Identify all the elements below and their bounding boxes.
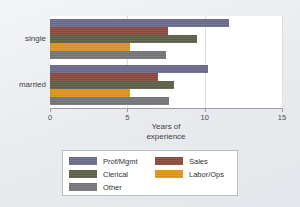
legend-swatch xyxy=(69,157,97,165)
legend-entry: Labor/Ops xyxy=(155,168,224,180)
x-axis-line xyxy=(50,108,282,109)
bar xyxy=(50,51,166,59)
legend-entry: Sales xyxy=(155,155,224,167)
chart-figure: singlemarried 051015 Years of experience… xyxy=(0,0,300,207)
bar xyxy=(50,73,158,81)
x-tick-mark xyxy=(205,108,206,112)
legend-swatch xyxy=(155,157,183,165)
x-tick-mark xyxy=(50,108,51,112)
bar xyxy=(50,65,208,73)
x-axis-title-line-1: Years of xyxy=(50,122,282,132)
bar xyxy=(50,19,229,27)
bar xyxy=(50,89,130,97)
category-label: married xyxy=(19,80,46,90)
bar xyxy=(50,81,174,89)
x-tick-label: 10 xyxy=(200,113,208,122)
legend-entry: Other xyxy=(69,181,138,193)
plot-area xyxy=(50,16,282,108)
legend-label: Sales xyxy=(189,157,208,166)
x-tick-label: 0 xyxy=(48,113,52,122)
x-tick-mark xyxy=(127,108,128,112)
legend-swatch xyxy=(155,170,183,178)
bar xyxy=(50,27,168,35)
x-tick-label: 15 xyxy=(278,113,286,122)
x-tick-mark xyxy=(282,108,283,112)
legend-swatch xyxy=(69,170,97,178)
bar xyxy=(50,97,169,105)
legend-entry: Clerical xyxy=(69,168,138,180)
bar xyxy=(50,35,197,43)
x-axis-title: Years of experience xyxy=(50,122,282,142)
legend-label: Labor/Ops xyxy=(189,170,224,179)
x-tick-label: 5 xyxy=(125,113,129,122)
legend-entry: Prof/Mgmt xyxy=(69,155,138,167)
x-axis-title-line-2: experience xyxy=(50,132,282,142)
legend-column-left: Prof/MgmtClericalOther xyxy=(69,155,138,194)
gridline xyxy=(205,16,206,108)
legend-label: Other xyxy=(103,183,122,192)
chart-legend: Prof/MgmtClericalOther SalesLabor/Ops xyxy=(62,150,238,196)
bar xyxy=(50,43,130,51)
legend-label: Clerical xyxy=(103,170,128,179)
category-label: single xyxy=(25,34,46,44)
legend-column-right: SalesLabor/Ops xyxy=(155,155,224,181)
legend-label: Prof/Mgmt xyxy=(103,157,138,166)
legend-swatch xyxy=(69,183,97,191)
gridline xyxy=(282,16,283,108)
